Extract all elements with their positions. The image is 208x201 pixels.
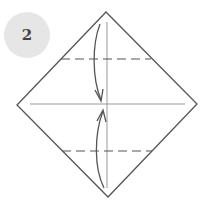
- fold-down-arrow-icon: [94, 24, 103, 101]
- fold-up-arrow-icon: [96, 110, 106, 188]
- origami-diagram: [0, 0, 208, 201]
